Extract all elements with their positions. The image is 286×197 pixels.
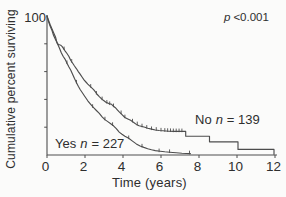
x-axis-tick-label: 10 bbox=[228, 159, 243, 174]
curve-label-no-count: = 139 bbox=[227, 112, 260, 127]
x-axis-tick-label: 8 bbox=[194, 159, 202, 174]
curve-label-yes-name: Yes bbox=[55, 136, 76, 151]
y-axis-title: Cumulative percent surviving bbox=[5, 9, 17, 169]
x-axis-tick-label: 4 bbox=[118, 159, 126, 174]
survival-chart-svg: 024681012 bbox=[0, 0, 286, 197]
curve-label-no: Non= 139 bbox=[195, 113, 260, 126]
y-axis-tick-label-100: 100 bbox=[20, 11, 46, 24]
survival-plot-figure: 024681012 Cumulative percent surviving 1… bbox=[0, 0, 286, 197]
curve-label-no-n-symbol: n bbox=[216, 112, 223, 127]
axes-lines bbox=[47, 15, 277, 155]
p-value-annotation: p<0.001 bbox=[224, 12, 269, 24]
x-axis-tick-label: 2 bbox=[80, 159, 88, 174]
x-axis-tick-label: 0 bbox=[42, 159, 50, 174]
p-symbol: p bbox=[224, 11, 230, 23]
curve-label-no-name: No bbox=[195, 112, 212, 127]
x-axis-tick-label: 6 bbox=[156, 159, 164, 174]
curve-label-yes-n-symbol: n bbox=[80, 136, 87, 151]
curve-label-yes: Yesn= 227 bbox=[55, 137, 124, 150]
survival-curve-yes bbox=[47, 16, 190, 154]
x-axis-tick-label: 12 bbox=[266, 159, 281, 174]
survival-curve-no bbox=[47, 16, 274, 154]
p-value-text: <0.001 bbox=[233, 11, 269, 23]
curve-label-yes-count: = 227 bbox=[91, 136, 124, 151]
x-axis-title: Time (years) bbox=[112, 176, 187, 189]
